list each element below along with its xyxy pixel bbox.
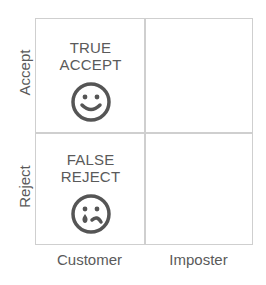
confusion-matrix-grid: TRUE ACCEPT FALSE REJECT	[35, 18, 253, 245]
column-label-imposter: Imposter	[144, 251, 253, 268]
cell-false-reject: FALSE REJECT	[36, 133, 145, 246]
cell-true-reject	[145, 133, 254, 246]
crying-face-icon	[70, 193, 112, 235]
happy-face-icon	[70, 81, 112, 123]
cell-label-line1: FALSE	[61, 151, 121, 168]
column-label-customer: Customer	[35, 251, 144, 268]
cell-true-accept: TRUE ACCEPT	[36, 19, 145, 132]
row-label-reject: Reject	[16, 157, 33, 217]
cell-label-line2: ACCEPT	[59, 56, 121, 73]
cell-label: TRUE ACCEPT	[59, 39, 121, 73]
cell-label: FALSE REJECT	[61, 151, 121, 185]
cell-false-accept	[145, 19, 254, 132]
row-label-accept: Accept	[16, 43, 33, 103]
cell-label-line1: TRUE	[59, 39, 121, 56]
cell-label-line2: REJECT	[61, 168, 121, 185]
